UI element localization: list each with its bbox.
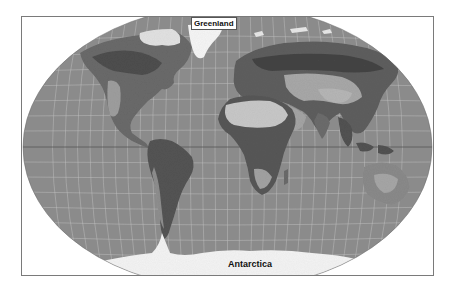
map-frame: Greenland Antarctica bbox=[21, 16, 434, 276]
label-antarctica: Antarctica bbox=[228, 259, 272, 269]
canadian-arctic-ice bbox=[140, 29, 181, 46]
world-map bbox=[22, 17, 433, 275]
region-sahara bbox=[225, 101, 288, 128]
label-greenland: Greenland bbox=[191, 17, 237, 30]
landmass-madagascar bbox=[284, 169, 288, 185]
globe bbox=[22, 17, 433, 275]
